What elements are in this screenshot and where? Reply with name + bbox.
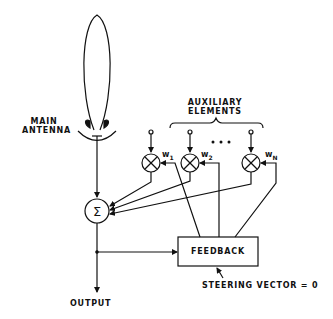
weight-2-label: w2 — [201, 150, 213, 161]
main-antenna-label-line1: MAIN — [22, 117, 66, 126]
main-antenna-label: MAIN ANTENNA — [22, 117, 66, 135]
auxiliary-elements-label: AUXILIARY ELEMENTS — [183, 98, 247, 116]
steering-vector-label: STEERING VECTOR = 0 — [202, 281, 318, 290]
main-beam-lobe — [84, 15, 110, 130]
aux-label-line1: AUXILIARY — [183, 98, 247, 107]
aux-brace — [170, 118, 263, 128]
sidelobe-left — [86, 120, 91, 128]
weight-1-label: w1 — [162, 150, 174, 161]
weight-N-label: wN — [265, 150, 277, 161]
aux-label-line2: ELEMENTS — [183, 107, 247, 116]
feedback-label: FEEDBACK — [178, 247, 258, 256]
sidelobe-right — [104, 120, 109, 128]
main-antenna-label-line2: ANTENNA — [22, 126, 66, 135]
output-label: OUTPUT — [70, 299, 111, 308]
summer-symbol: Σ — [93, 204, 101, 219]
